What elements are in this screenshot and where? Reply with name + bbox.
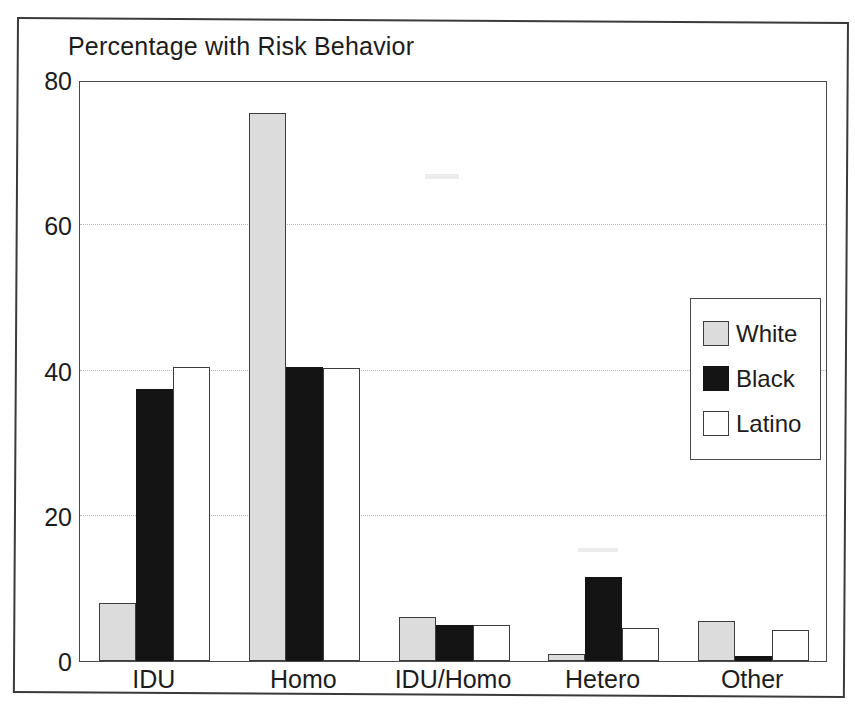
bar-group-hetero xyxy=(548,82,659,661)
legend-item-black: Black xyxy=(703,356,820,401)
bar-latino-idu-homo xyxy=(473,625,510,661)
bar-white-homo xyxy=(249,113,286,661)
x-tick-label-hetero: Hetero xyxy=(565,665,640,694)
bar-black-idu-homo xyxy=(436,625,473,661)
bar-black-other xyxy=(735,656,772,661)
y-tick-label-80: 80 xyxy=(10,67,72,96)
y-tick-label-0: 0 xyxy=(10,648,72,677)
y-tick-label-40: 40 xyxy=(10,357,72,386)
bar-latino-other xyxy=(772,630,809,661)
x-tick-label-idu: IDU xyxy=(132,665,175,694)
bar-latino-hetero xyxy=(622,628,659,661)
y-axis: 806040200 xyxy=(0,81,72,662)
bar-white-idu xyxy=(99,603,136,661)
bar-group-idu-homo xyxy=(399,82,510,661)
legend-swatch-white-icon xyxy=(703,321,729,346)
bar-group-homo xyxy=(249,82,360,661)
chart-screenshot: Percentage with Risk Behavior 806040200 … xyxy=(0,0,855,717)
chart-title: Percentage with Risk Behavior xyxy=(68,32,414,61)
bar-latino-idu xyxy=(173,367,210,661)
legend-label-latino: Latino xyxy=(736,412,801,436)
bar-black-homo xyxy=(286,367,323,661)
plot-area: White Black Latino xyxy=(79,81,827,662)
x-tick-label-homo: Homo xyxy=(270,665,337,694)
bar-white-idu-homo xyxy=(399,617,436,661)
x-tick-label-other: Other xyxy=(721,665,784,694)
y-tick-label-60: 60 xyxy=(10,212,72,241)
legend-label-black: Black xyxy=(736,367,795,391)
bar-black-hetero xyxy=(585,577,622,661)
x-axis: IDUHomoIDU/HomoHeteroOther xyxy=(79,665,827,711)
bar-white-other xyxy=(698,621,735,661)
bar-white-hetero xyxy=(548,654,585,661)
legend: White Black Latino xyxy=(690,298,821,460)
legend-item-white: White xyxy=(703,311,820,356)
bar-black-idu xyxy=(136,389,173,661)
x-tick-label-idu-homo: IDU/Homo xyxy=(395,665,512,694)
legend-swatch-latino-icon xyxy=(703,411,729,436)
y-tick-label-20: 20 xyxy=(10,502,72,531)
legend-label-white: White xyxy=(736,322,797,346)
bar-chart: Percentage with Risk Behavior 806040200 … xyxy=(0,0,855,717)
bar-latino-homo xyxy=(323,368,360,661)
legend-swatch-black-icon xyxy=(703,366,729,391)
legend-item-latino: Latino xyxy=(703,401,820,446)
bar-group-idu xyxy=(99,82,210,661)
